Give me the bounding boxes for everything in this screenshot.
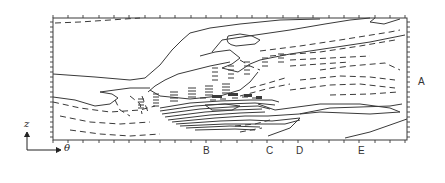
marker-c: C (266, 146, 273, 156)
marker-e: E (358, 146, 365, 156)
negative-contours (53, 18, 400, 136)
marker-b: B (203, 146, 210, 156)
marker-a: A (418, 77, 425, 87)
axis-indicator (25, 132, 62, 153)
plot-frame (53, 18, 407, 140)
marker-d: D (296, 146, 303, 156)
theta-axis-label: θ (64, 143, 70, 153)
contour-figure (0, 0, 445, 183)
z-axis-label: z (24, 119, 29, 129)
